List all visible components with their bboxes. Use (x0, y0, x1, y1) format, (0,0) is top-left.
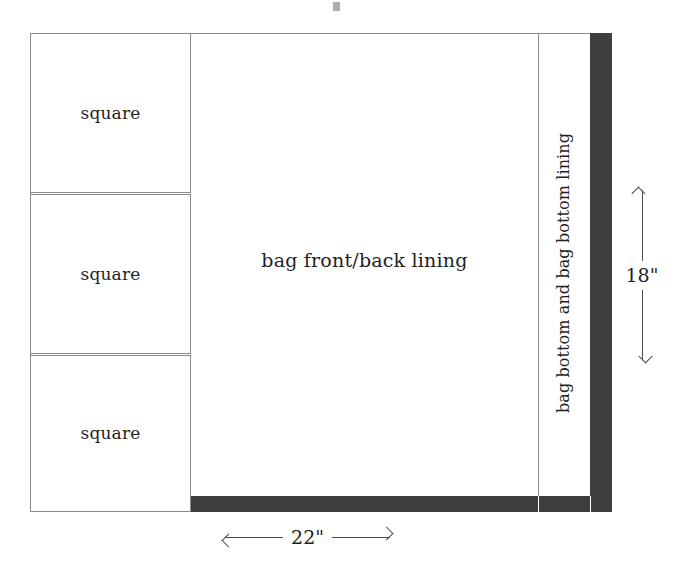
square-piece-1-label: square (80, 105, 140, 122)
bag-bottom-bar-horizontal (191, 496, 612, 512)
bag-bottom-lining-piece: bag bottom and bag bottom lining (539, 34, 590, 511)
width-dimension: 22" (225, 522, 390, 552)
bag-front-back-lining-label: bag front/back lining (261, 251, 467, 270)
square-piece-3-label: square (80, 425, 140, 442)
square-piece-3: square (30, 355, 191, 512)
square-piece-1: square (30, 33, 191, 193)
height-dimension: 18" (620, 190, 664, 360)
right-arrow-icon (332, 531, 390, 543)
bag-front-back-lining-piece: bag front/back lining (191, 34, 538, 511)
width-dimension-value: 22" (291, 528, 324, 547)
height-dimension-value: 18" (626, 266, 659, 285)
bar-seam-tick-2 (590, 496, 591, 512)
down-arrow-icon (636, 290, 648, 361)
diagram-canvas: square square square bag front/back lini… (0, 0, 687, 569)
bag-bottom-lining-label: bag bottom and bag bottom lining (557, 132, 573, 412)
left-arrow-icon (225, 531, 283, 543)
bag-bottom-bar-vertical (590, 33, 612, 512)
square-piece-2: square (30, 194, 191, 354)
square-pieces-column: square square square (30, 33, 191, 512)
square-piece-2-label: square (80, 266, 140, 283)
bar-seam-tick-1 (538, 496, 539, 512)
up-arrow-icon (636, 190, 648, 261)
top-edge-artifact (333, 2, 340, 11)
